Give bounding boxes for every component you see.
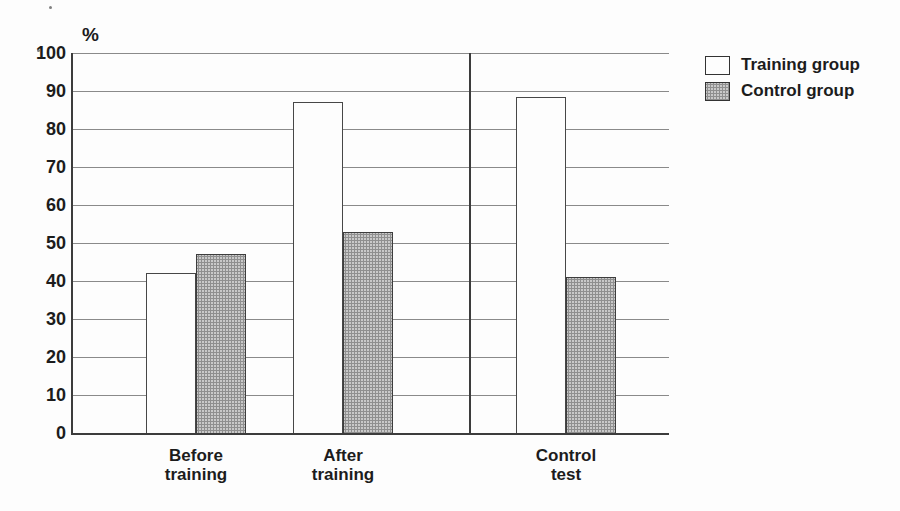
- category-label-line: After: [263, 446, 423, 465]
- y-tick-label: 90: [0, 81, 66, 101]
- gridline: [73, 53, 669, 54]
- y-axis-tick-labels: 1009080706050403020100: [0, 0, 66, 511]
- gridline: [73, 129, 669, 130]
- bar-training-group-before-training: [146, 273, 196, 433]
- bar-training-group-after-training: [293, 102, 343, 433]
- y-tick-label: 80: [0, 119, 66, 139]
- y-tick-label: 20: [0, 347, 66, 367]
- gridline: [73, 205, 669, 206]
- category-label-line: training: [116, 465, 276, 484]
- category-label-line: training: [263, 465, 423, 484]
- group-separator-line: [469, 53, 471, 433]
- category-label-line: Control: [486, 446, 646, 465]
- category-label-line: Before: [116, 446, 276, 465]
- y-tick-label: 100: [0, 43, 66, 63]
- gridline: [73, 91, 669, 92]
- legend-label: Control group: [741, 81, 854, 101]
- legend: Training groupControl group: [705, 55, 860, 107]
- legend-label: Training group: [741, 55, 860, 75]
- legend-swatch-control-group: [705, 82, 730, 101]
- category-label-after-training: Aftertraining: [263, 446, 423, 484]
- legend-item-training-group: Training group: [705, 55, 860, 75]
- y-tick-label: 10: [0, 385, 66, 405]
- bar-chart-figure: % 1009080706050403020100 BeforetrainingA…: [0, 0, 900, 511]
- gridline: [73, 167, 669, 168]
- bar-training-group-control-test: [516, 97, 566, 433]
- bar-control-group-control-test: [566, 277, 616, 433]
- bar-control-group-after-training: [343, 232, 393, 433]
- y-tick-label: 70: [0, 157, 66, 177]
- y-tick-label: 60: [0, 195, 66, 215]
- legend-swatch-training-group: [705, 56, 730, 75]
- category-label-control-test: Controltest: [486, 446, 646, 484]
- legend-item-control-group: Control group: [705, 81, 860, 101]
- y-axis-unit-label: %: [82, 24, 99, 46]
- category-label-line: test: [486, 465, 646, 484]
- category-label-before-training: Beforetraining: [116, 446, 276, 484]
- bar-control-group-before-training: [196, 254, 246, 433]
- y-tick-label: 0: [0, 423, 66, 443]
- y-tick-label: 50: [0, 233, 66, 253]
- y-tick-label: 40: [0, 271, 66, 291]
- y-tick-label: 30: [0, 309, 66, 329]
- plot-area: [71, 53, 669, 435]
